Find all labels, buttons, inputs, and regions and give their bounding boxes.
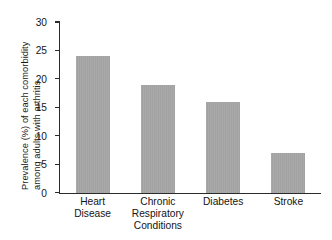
y-axis-tick-label: 25 [9,45,47,56]
bar [271,153,305,193]
y-axis-tick [55,135,59,136]
x-axis-line [59,193,321,194]
y-axis-tick-label: 0 [9,187,47,198]
bar [206,102,240,193]
y-axis-tick [55,78,59,79]
y-axis-tick-label: 15 [9,102,47,113]
x-axis-tick-label-line: Stroke [243,196,332,208]
y-axis-tick [55,21,59,22]
x-axis-tick-label-line: Conditions [113,220,203,232]
y-axis-tick [55,164,59,165]
y-axis-tick [55,107,59,108]
bar-series [60,22,321,193]
x-axis-tick-label-line: Respiratory [113,208,203,220]
y-axis-tick [55,50,59,51]
y-axis-tick-label: 30 [9,17,47,28]
y-axis-tick-label: 20 [9,73,47,84]
bar-chart-figure: Prevalence (%) of each comorbidity among… [0,0,332,240]
bar [76,56,110,192]
y-axis-tick-label: 10 [9,130,47,141]
x-axis-tick-labels: HeartDiseaseChronicRespiratoryConditions… [60,196,321,240]
x-axis-tick-label: Stroke [243,196,332,208]
y-axis-tick-label: 5 [9,159,47,170]
y-axis-title: Prevalence (%) of each comorbidity among… [0,0,40,200]
bar [141,85,175,193]
y-axis-tick [55,192,59,193]
